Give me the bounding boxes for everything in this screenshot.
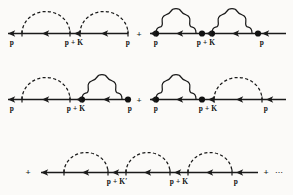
plus-operator: + [263, 167, 268, 177]
wavy-photon-arc [156, 75, 196, 99]
vertex-dot [125, 96, 131, 102]
momentum-label: p [234, 177, 238, 186]
momentum-label: p + K [170, 177, 189, 186]
dashed-propagator-arc [80, 12, 128, 34]
momentum-label: p + K [65, 38, 84, 47]
diagram-canvas: p p + K p + p p + K [0, 0, 293, 195]
dashed-propagator-arc [22, 78, 70, 100]
momentum-label: p [264, 104, 268, 113]
wavy-photon-arc [212, 9, 252, 33]
dashed-propagator-arc [126, 153, 170, 173]
dashed-propagator-arc [214, 78, 262, 100]
plus-operator: + [136, 95, 141, 105]
feynman-diagram-figure: p p + K p + p p + K [0, 0, 293, 195]
momentum-label: p + K [67, 104, 86, 113]
momentum-label: p [260, 38, 264, 47]
diagram-2-2: p p + K p [150, 75, 286, 113]
dashed-propagator-arc [188, 153, 232, 173]
row-1: p p + K p + p p + K [8, 9, 286, 47]
row-2: p p + K p + p p + K [8, 75, 286, 113]
dashed-propagator-arc [22, 12, 70, 34]
momentum-label: p + K [197, 38, 216, 47]
vertex-dot [199, 30, 205, 36]
vertex-dot [199, 96, 205, 102]
ellipsis: ⋯ [275, 168, 284, 177]
momentum-label: p + K′ [107, 177, 128, 186]
plus-operator: + [136, 29, 141, 39]
diagram-1-2: p p + K p [150, 9, 286, 47]
momentum-label: p [128, 104, 132, 113]
momentum-label: p [154, 38, 158, 47]
momentum-label: p [154, 104, 158, 113]
momentum-label: p + K [199, 104, 218, 113]
wavy-photon-arc [156, 9, 196, 33]
plus-operator: + [25, 167, 30, 177]
momentum-label: p [10, 104, 14, 113]
diagram-3-1: p + K′ p + K p [41, 153, 258, 187]
diagram-1-1: p p + K p [8, 12, 130, 48]
wavy-photon-arc [82, 75, 122, 99]
momentum-label: p [10, 38, 14, 47]
vertex-dot [255, 30, 261, 36]
row-3: + p + K′ p + K [25, 153, 283, 187]
diagram-2-1: p p + K p [8, 75, 132, 113]
momentum-label: p [126, 38, 130, 47]
dashed-propagator-arc [64, 153, 108, 173]
